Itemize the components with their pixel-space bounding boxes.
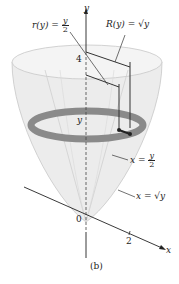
- x-tick-2: 2: [126, 236, 132, 246]
- y-tick-4: 4: [76, 54, 82, 64]
- slice-y-label: y: [77, 115, 82, 125]
- outer-point: [128, 132, 132, 136]
- top-rim: [12, 45, 162, 79]
- outer-curve-label: x = √y: [136, 191, 165, 201]
- inner-curve-label: x = y2: [130, 152, 155, 169]
- outer-radius-label: R(y) = √y: [106, 19, 149, 29]
- figure-caption: (b): [90, 261, 103, 271]
- inner-radius-lhs: r(y) =: [32, 20, 59, 30]
- x-axis-label: x: [166, 245, 171, 255]
- x-axis-arrow: [159, 245, 166, 250]
- inner-radius-fraction: y2: [62, 17, 69, 34]
- solid-of-revolution-diagram: [0, 0, 179, 284]
- y-axis-label: y: [84, 3, 89, 13]
- inner-point: [117, 128, 121, 132]
- inner-radius-label: r(y) = y2: [32, 17, 69, 34]
- origin-label: 0: [76, 214, 82, 224]
